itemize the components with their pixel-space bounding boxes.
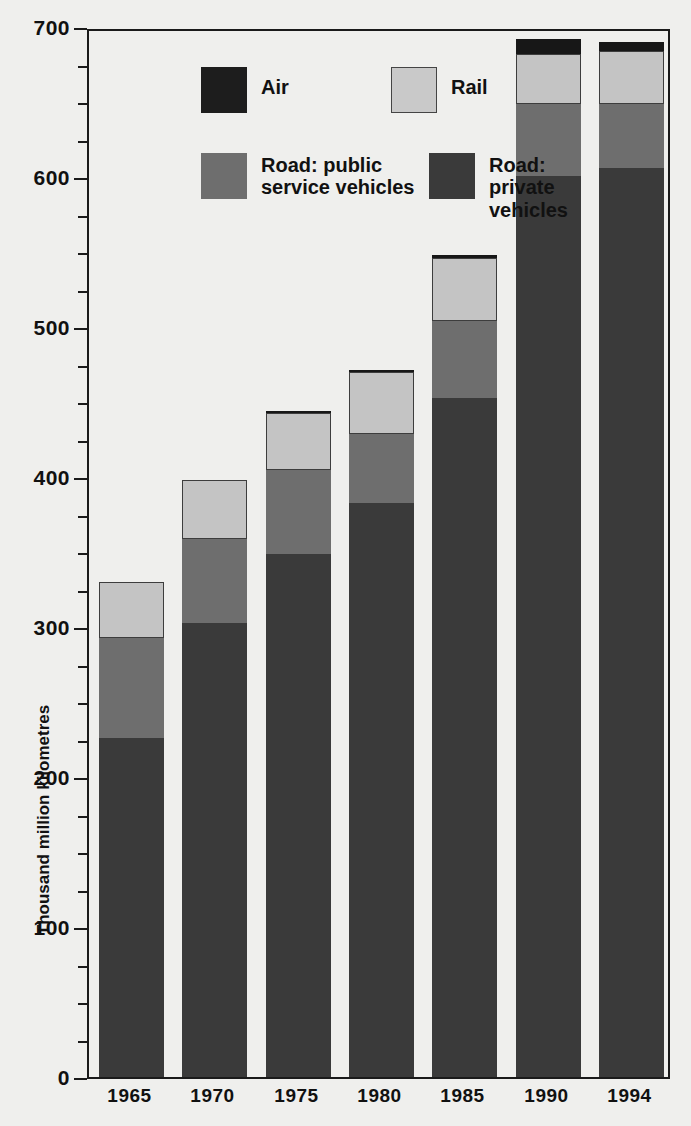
bar-segment-1970-road-public-service-vehicles: [182, 539, 247, 623]
y-tick-label: 400: [33, 466, 70, 490]
bar-1980[interactable]: [349, 371, 414, 1078]
bar-segment-1980-road-public-service-vehicles: [349, 434, 414, 503]
tick-mark: [78, 666, 87, 668]
tick-mark: [74, 328, 87, 330]
bar-segment-1975-road-public-service-vehicles: [266, 470, 331, 554]
bar-segment-1975-road-private-vehicles: [266, 554, 331, 1078]
tick-mark: [78, 253, 87, 255]
bar-segment-1985-road-public-service-vehicles: [432, 321, 497, 398]
plot-area: AirRailRoad: public service vehiclesRoad…: [87, 29, 670, 1079]
stacked-bar-chart: 0100200300400500600700 Thousand million …: [0, 0, 691, 1126]
tick-mark: [78, 966, 87, 968]
x-tick-label-1980: 1980: [337, 1085, 422, 1107]
tick-mark: [74, 628, 87, 630]
bar-segment-1985-air: [432, 255, 497, 258]
tick-mark: [78, 703, 87, 705]
tick-mark: [78, 366, 87, 368]
tick-mark: [78, 403, 87, 405]
bar-segment-1994-road-public-service-vehicles: [599, 104, 664, 169]
bar-segment-1965-road-private-vehicles: [99, 738, 164, 1077]
legend-road-public-swatch-icon: [201, 153, 247, 199]
x-tick-label-1965: 1965: [87, 1085, 172, 1107]
bar-1975[interactable]: [266, 411, 331, 1077]
tick-mark: [78, 441, 87, 443]
y-tick-label: 600: [33, 166, 70, 190]
legend-road-private-swatch-icon: [429, 153, 475, 199]
tick-mark: [74, 928, 87, 930]
bar-segment-1980-road-private-vehicles: [349, 503, 414, 1078]
x-tick-label-1970: 1970: [170, 1085, 255, 1107]
bar-segment-1994-road-private-vehicles: [599, 168, 664, 1077]
bar-segment-1994-rail: [599, 51, 664, 104]
tick-mark: [78, 291, 87, 293]
x-tick-label-1990: 1990: [504, 1085, 589, 1107]
tick-mark: [78, 1003, 87, 1005]
y-tick-label: 500: [33, 316, 70, 340]
y-tick-label: 700: [33, 16, 70, 40]
bar-segment-1970-rail: [182, 480, 247, 539]
tick-mark: [74, 478, 87, 480]
legend-road-private-label: Road: private vehicles: [489, 153, 581, 221]
bar-segment-1970-road-private-vehicles: [182, 623, 247, 1078]
bar-1970[interactable]: [182, 480, 247, 1077]
tick-mark: [78, 103, 87, 105]
bar-segment-1980-rail: [349, 372, 414, 434]
x-tick-label-1975: 1975: [254, 1085, 339, 1107]
tick-mark: [74, 1078, 87, 1080]
bar-segment-1975-air: [266, 411, 331, 413]
tick-mark: [78, 216, 87, 218]
legend-rail-label: Rail: [451, 67, 488, 98]
tick-mark: [78, 66, 87, 68]
tick-mark: [78, 1041, 87, 1043]
y-tick-label: 300: [33, 616, 70, 640]
bar-segment-1980-air: [349, 370, 414, 372]
x-tick-label-1994: 1994: [587, 1085, 672, 1107]
tick-mark: [74, 178, 87, 180]
y-tick-label: 0: [58, 1066, 70, 1090]
tick-mark: [78, 553, 87, 555]
bar-segment-1985-road-private-vehicles: [432, 398, 497, 1078]
tick-mark: [78, 591, 87, 593]
tick-mark: [78, 891, 87, 893]
legend-rail[interactable]: Rail: [391, 67, 488, 113]
legend-air[interactable]: Air: [201, 67, 289, 113]
bar-1985[interactable]: [432, 255, 497, 1077]
bar-1965[interactable]: [99, 582, 164, 1077]
tick-mark: [78, 741, 87, 743]
bar-segment-1965-road-public-service-vehicles: [99, 638, 164, 739]
legend-road-private[interactable]: Road: private vehicles: [429, 153, 581, 221]
bar-segment-1975-rail: [266, 413, 331, 470]
tick-mark: [78, 141, 87, 143]
x-tick-label-1985: 1985: [420, 1085, 505, 1107]
tick-mark: [78, 853, 87, 855]
tick-mark: [78, 516, 87, 518]
y-axis-title: Thousand million kilometres: [34, 690, 54, 950]
legend-air-swatch-icon: [201, 67, 247, 113]
tick-mark: [78, 816, 87, 818]
legend-road-public-label: Road: public service vehicles: [261, 153, 414, 199]
bar-segment-1965-rail: [99, 582, 164, 638]
legend-rail-swatch-icon: [391, 67, 437, 113]
tick-mark: [74, 778, 87, 780]
bar-segment-1990-rail: [516, 54, 581, 104]
legend-road-public[interactable]: Road: public service vehicles: [201, 153, 414, 199]
y-axis: 0100200300400500600700: [0, 0, 87, 1126]
tick-mark: [74, 28, 87, 30]
bar-segment-1990-road-private-vehicles: [516, 176, 581, 1078]
legend-air-label: Air: [261, 67, 289, 98]
bar-1994[interactable]: [599, 42, 664, 1077]
bar-segment-1990-air: [516, 39, 581, 54]
bar-segment-1994-air: [599, 42, 664, 51]
bar-segment-1985-rail: [432, 258, 497, 321]
